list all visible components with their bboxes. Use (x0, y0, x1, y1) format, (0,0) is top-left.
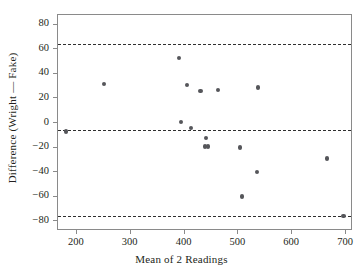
data-point (240, 194, 244, 198)
x-axis-tick-label: 500 (229, 237, 245, 248)
data-point (177, 56, 181, 60)
lower-limit-of-agreement (58, 216, 351, 217)
data-point (255, 170, 259, 174)
data-point (206, 144, 210, 148)
y-axis-tick (53, 220, 57, 221)
data-point (64, 129, 68, 133)
y-axis-tick (53, 196, 57, 197)
x-axis-tick (184, 230, 185, 234)
data-point (216, 88, 220, 92)
y-axis-tick (53, 122, 57, 123)
x-axis-tick (237, 230, 238, 234)
y-axis-tick-label: −80 (0, 215, 49, 226)
y-axis-tick (53, 48, 57, 49)
y-axis-tick (53, 97, 57, 98)
plot-area (58, 15, 351, 229)
x-axis-tick (345, 230, 346, 234)
data-point (238, 145, 242, 149)
bland-altman-chart: 806040200−20−40−60−80200300400500600700 … (0, 0, 363, 275)
x-axis-title: Mean of 2 Readings (0, 253, 363, 265)
data-point (185, 83, 189, 87)
x-axis-tick (76, 230, 77, 234)
mean-difference (58, 130, 351, 131)
upper-limit-of-agreement (58, 44, 351, 45)
data-point (198, 89, 202, 93)
data-point (204, 136, 208, 140)
data-point (256, 85, 260, 89)
data-point (325, 156, 329, 160)
x-axis-tick-label: 200 (68, 237, 84, 248)
data-point (341, 214, 345, 218)
x-axis-tick (130, 230, 131, 234)
data-point (179, 120, 183, 124)
y-axis-tick (53, 73, 57, 74)
y-axis-title: Difference (Wright — Fake) (6, 23, 18, 213)
x-axis-tick-label: 700 (337, 237, 353, 248)
y-axis-tick (53, 171, 57, 172)
x-axis-tick-label: 600 (283, 237, 299, 248)
plot-frame (57, 14, 352, 230)
data-point (102, 82, 106, 86)
x-axis-tick-label: 400 (176, 237, 192, 248)
x-axis-tick-label: 300 (122, 237, 138, 248)
y-axis-tick (53, 24, 57, 25)
y-axis-tick (53, 147, 57, 148)
x-axis-tick (291, 230, 292, 234)
